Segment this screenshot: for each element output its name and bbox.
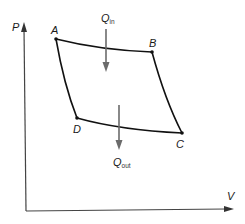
curve-c-d (77, 118, 182, 133)
heat-out-subscript: out (122, 162, 131, 169)
heat-in-subscript: in (110, 18, 115, 25)
y-axis (24, 28, 26, 211)
heat-out: Qout (113, 105, 131, 169)
y-axis-label: P (12, 21, 20, 33)
x-axis (26, 209, 226, 211)
heat-in-arrowhead-icon (103, 62, 110, 72)
heat-out-arrowhead-icon (116, 140, 123, 150)
heat-out-label: Qout (113, 156, 131, 169)
point-d (75, 116, 79, 120)
y-axis-arrow-icon (21, 22, 27, 32)
point-b (150, 50, 154, 54)
point-b-label: B (149, 37, 156, 49)
curve-a-b (56, 39, 152, 52)
point-c (180, 131, 184, 135)
curve-b-c (152, 52, 182, 133)
x-axis-label: V (227, 190, 236, 202)
point-c-label: C (176, 138, 184, 150)
pv-diagram: P V A B C D Qin Qout (0, 0, 245, 224)
point-d-label: D (73, 123, 81, 135)
x-axis-arrow-icon (224, 206, 234, 212)
heat-in: Qin (101, 12, 115, 72)
point-a-label: A (50, 24, 58, 36)
heat-in-label: Qin (101, 12, 115, 25)
point-a (54, 37, 58, 41)
curve-d-a (56, 39, 77, 118)
